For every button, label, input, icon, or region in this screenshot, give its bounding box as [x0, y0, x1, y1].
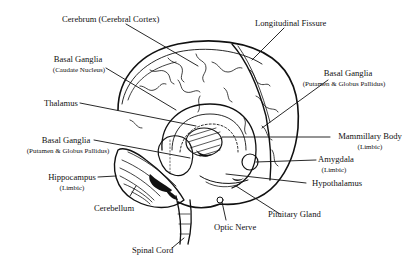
label-cerebellum: Cerebellum — [94, 203, 134, 213]
label-basal-ganglia-putamen-left: Basal Ganglia — [42, 135, 90, 145]
label-mammillary-body: Mammillary Body — [338, 131, 402, 141]
label-amygdala-sub: (Limbic) — [322, 166, 347, 175]
label-basal-ganglia-putamen-right: Basal Ganglia — [324, 68, 372, 78]
label-title: Basal Ganglia — [54, 54, 102, 64]
label-basal-ganglia-caudate-sub: (Caudate Nucleus) — [53, 66, 105, 75]
label-title: Hippocampus — [48, 172, 96, 182]
label-title: Optic Nerve — [214, 222, 256, 232]
label-title: Cerebrum (Cerebral Cortex) — [62, 14, 159, 24]
label-optic-nerve: Optic Nerve — [214, 222, 256, 232]
label-hippocampus: Hippocampus — [48, 172, 96, 182]
label-title: Pituitary Gland — [268, 209, 321, 219]
label-thalamus: Thalamus — [44, 98, 78, 108]
label-basal-ganglia-putamen-right-sub: (Putamen & Globus Pallidus) — [303, 80, 386, 89]
brainstem-shape — [176, 196, 191, 244]
label-pituitary-gland: Pituitary Gland — [268, 209, 321, 219]
label-title: Amygdala — [318, 154, 354, 164]
label-mammillary-body-sub: (Limbic) — [358, 143, 383, 152]
label-basal-ganglia-putamen-left-sub: (Putamen & Globus Pallidus) — [27, 147, 110, 156]
label-title: Hypothalamus — [312, 178, 362, 188]
label-title: Mammillary Body — [338, 131, 402, 141]
label-subtitle: (Caudate Nucleus) — [53, 66, 105, 74]
label-title: Thalamus — [44, 98, 78, 108]
thalamus-shape — [186, 128, 222, 156]
label-title: Basal Ganglia — [324, 68, 372, 78]
label-subtitle: (Putamen & Globus Pallidus) — [27, 147, 110, 155]
label-basal-ganglia-caudate: Basal Ganglia — [54, 54, 102, 64]
label-spinal-cord: Spinal Cord — [132, 245, 173, 255]
label-title: Basal Ganglia — [42, 135, 90, 145]
label-hypothalamus: Hypothalamus — [312, 178, 362, 188]
label-subtitle: (Limbic) — [358, 143, 383, 151]
label-title: Cerebellum — [94, 203, 134, 213]
label-subtitle: (Limbic) — [322, 166, 347, 174]
label-amygdala: Amygdala — [318, 154, 354, 164]
label-subtitle: (Limbic) — [60, 184, 85, 192]
label-title: Spinal Cord — [132, 245, 173, 255]
label-hippocampus-sub: (Limbic) — [60, 184, 85, 193]
label-longitudinal-fissure: Longitudinal Fissure — [255, 18, 326, 28]
label-title: Longitudinal Fissure — [255, 18, 326, 28]
brain-diagram: Cerebrum (Cerebral Cortex) Longitudinal … — [0, 0, 412, 267]
label-subtitle: (Putamen & Globus Pallidus) — [303, 80, 386, 88]
label-cerebrum: Cerebrum (Cerebral Cortex) — [62, 14, 159, 24]
